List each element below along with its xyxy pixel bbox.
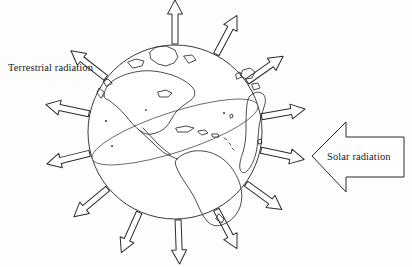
solar-radiation-label: Solar radiation [327,151,391,162]
globe-outline [88,45,262,219]
earth-globe [86,45,265,226]
radiation-arrow [171,220,188,264]
diagram-canvas [0,0,412,267]
radiation-arrow [45,146,91,171]
iberia-outline [252,83,260,90]
radiation-arrow [243,50,288,88]
map-dot [105,120,107,122]
radiation-arrow [210,12,244,58]
radiation-arrow [44,97,90,121]
radiation-arrow [210,206,244,252]
map-dot [111,145,113,147]
terrestrial-radiation-label: Terrestrial radiation [8,62,93,73]
radiation-arrow [69,183,112,223]
radiation-arrow [168,0,183,44]
radiation-arrow [242,178,286,216]
map-dot [223,112,225,114]
map-dot [145,109,147,111]
radiation-diagram-figure: Terrestrial radiation Solar radiation [0,0,412,267]
radiation-arrow [114,209,146,255]
radiation-arrow [260,143,306,167]
radiation-arrow [260,102,306,124]
